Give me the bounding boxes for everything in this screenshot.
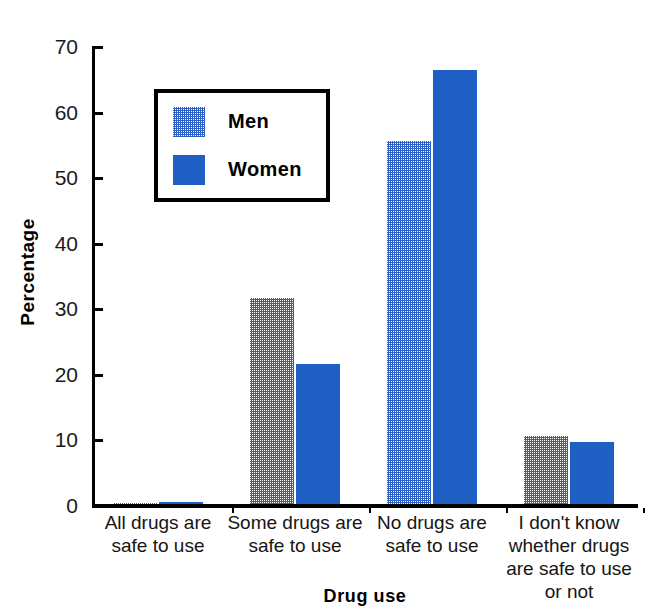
bar-chart: 010203040506070 Percentage All drugs are… xyxy=(0,0,666,614)
legend-label-men: Men xyxy=(228,110,269,133)
bar-men xyxy=(524,436,568,506)
bar-group xyxy=(387,47,477,506)
y-axis-title: Percentage xyxy=(17,182,39,362)
bar-women xyxy=(296,364,340,506)
y-tick-label: 20 xyxy=(32,364,78,385)
bar-women xyxy=(570,442,614,506)
category-label-line: whether drugs xyxy=(484,534,654,557)
women-swatch-icon xyxy=(173,155,205,185)
y-tick-label: 0 xyxy=(32,495,78,516)
bar-group xyxy=(524,47,614,506)
bar-men xyxy=(250,298,294,506)
legend: Men Women xyxy=(154,89,330,202)
y-tick-label: 70 xyxy=(32,36,78,57)
x-axis-line xyxy=(92,504,638,508)
category-label-line: are safe to use xyxy=(484,557,654,580)
x-axis-title: Drug use xyxy=(92,586,638,607)
legend-label-women: Women xyxy=(228,158,302,181)
y-tick-label: 60 xyxy=(32,102,78,123)
y-tick-label: 10 xyxy=(32,429,78,450)
category-label-line: I don't know xyxy=(484,511,654,534)
bar-men xyxy=(387,141,431,506)
men-swatch-icon xyxy=(173,107,205,137)
bar-women xyxy=(433,70,477,506)
